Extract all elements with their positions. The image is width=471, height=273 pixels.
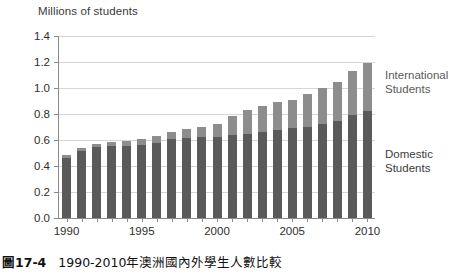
series-label-domestic-line1: Domestic	[385, 148, 433, 162]
y-tick-label-1.0: 1.0	[34, 82, 50, 94]
series-label-domestic: Domestic Students	[385, 148, 433, 175]
x-tick-mark-1998	[187, 218, 188, 222]
caption-text: 1990-2010年澳洲國內外學生人數比較	[58, 255, 282, 270]
bar-segment-domestic-2010[interactable]	[363, 111, 372, 218]
bar-segment-international-1990[interactable]	[62, 155, 71, 158]
bar-segment-international-2009[interactable]	[348, 71, 357, 115]
plot-frame: 0.00.20.40.60.81.01.21.4 199019952000200…	[59, 36, 375, 218]
figure-container: Millions of students 0.00.20.40.60.81.01…	[0, 0, 471, 273]
bar-2003[interactable]	[258, 106, 267, 218]
x-tick-mark-2001	[232, 218, 233, 222]
bar-segment-international-2003[interactable]	[258, 106, 267, 132]
bar-segment-international-1999[interactable]	[197, 127, 206, 137]
bar-2006[interactable]	[303, 94, 312, 218]
bar-segment-international-1996[interactable]	[152, 136, 161, 143]
x-tick-mark-1994	[127, 218, 128, 222]
bar-segment-domestic-1993[interactable]	[107, 146, 116, 218]
bar-1991[interactable]	[77, 148, 86, 218]
bar-segment-domestic-1999[interactable]	[197, 137, 206, 218]
bar-segment-international-1995[interactable]	[137, 139, 146, 144]
bar-segment-international-1997[interactable]	[167, 132, 176, 140]
bar-segment-domestic-2000[interactable]	[213, 137, 222, 218]
y-tick-label-1.2: 1.2	[34, 56, 50, 68]
bar-2005[interactable]	[288, 100, 297, 218]
bar-segment-domestic-1992[interactable]	[92, 147, 101, 218]
x-tick-label-2010: 2010	[355, 225, 381, 237]
x-tick-mark-2007	[322, 218, 323, 222]
bar-segment-international-2001[interactable]	[228, 116, 237, 135]
bar-segment-domestic-2005[interactable]	[288, 128, 297, 218]
x-tick-mark-2006	[307, 218, 308, 222]
bar-segment-domestic-2001[interactable]	[228, 135, 237, 218]
bar-1995[interactable]	[137, 139, 146, 218]
bar-segment-domestic-1996[interactable]	[152, 143, 161, 218]
bar-1998[interactable]	[182, 129, 191, 218]
x-tick-mark-2005	[292, 218, 293, 222]
bar-segment-international-1994[interactable]	[122, 141, 131, 146]
y-tick-mark-0.0	[54, 218, 59, 219]
bar-segment-domestic-1998[interactable]	[182, 138, 191, 218]
x-tick-label-1995: 1995	[129, 225, 155, 237]
bar-1999[interactable]	[197, 127, 206, 218]
bar-segment-international-2010[interactable]	[363, 63, 372, 110]
bar-2008[interactable]	[333, 82, 342, 219]
bar-segment-international-2008[interactable]	[333, 82, 342, 122]
y-tick-label-0.0: 0.0	[34, 212, 50, 224]
x-tick-label-2005: 2005	[279, 225, 305, 237]
bar-segment-domestic-2009[interactable]	[348, 115, 357, 218]
bar-segment-domestic-2008[interactable]	[333, 121, 342, 218]
y-tick-mark-0.4	[54, 166, 59, 167]
bar-segment-domestic-1990[interactable]	[62, 158, 71, 218]
gridline-1.0	[59, 88, 375, 89]
bar-segment-international-2000[interactable]	[213, 124, 222, 137]
bar-segment-domestic-2007[interactable]	[318, 124, 327, 218]
bar-2010[interactable]	[363, 63, 372, 218]
bar-1994[interactable]	[122, 141, 131, 218]
y-tick-mark-0.6	[54, 140, 59, 141]
gridline-1.2	[59, 62, 375, 63]
y-tick-mark-0.8	[54, 114, 59, 115]
bar-segment-international-2007[interactable]	[318, 88, 327, 124]
y-tick-label-0.4: 0.4	[34, 160, 50, 172]
caption-number: 圖17-4	[2, 255, 46, 270]
y-tick-mark-1.0	[54, 88, 59, 89]
bar-segment-international-1991[interactable]	[77, 148, 86, 151]
x-tick-label-2000: 2000	[204, 225, 230, 237]
x-tick-mark-2009	[352, 218, 353, 222]
bar-2007[interactable]	[318, 88, 327, 218]
bar-segment-international-2006[interactable]	[303, 94, 312, 127]
bar-2001[interactable]	[228, 116, 237, 218]
y-tick-label-0.8: 0.8	[34, 108, 50, 120]
bar-segment-international-1992[interactable]	[92, 144, 101, 147]
bar-2004[interactable]	[273, 102, 282, 218]
bar-segment-domestic-1994[interactable]	[122, 146, 131, 218]
bar-1993[interactable]	[107, 142, 116, 218]
bar-1992[interactable]	[92, 144, 101, 218]
x-tick-mark-1990	[67, 218, 68, 222]
y-axis-line	[58, 36, 59, 218]
bar-segment-international-2005[interactable]	[288, 100, 297, 128]
bar-segment-international-1998[interactable]	[182, 129, 191, 138]
x-tick-mark-2004	[277, 218, 278, 222]
bar-segment-domestic-1995[interactable]	[137, 145, 146, 218]
bar-segment-domestic-1997[interactable]	[167, 139, 176, 218]
bar-segment-domestic-1991[interactable]	[77, 151, 86, 218]
bar-1996[interactable]	[152, 136, 161, 218]
bar-segment-international-2004[interactable]	[273, 102, 282, 129]
bar-segment-international-2002[interactable]	[243, 110, 252, 133]
bar-2002[interactable]	[243, 110, 252, 218]
bar-segment-international-1993[interactable]	[107, 142, 116, 146]
bar-segment-domestic-2004[interactable]	[273, 130, 282, 218]
bar-2009[interactable]	[348, 71, 357, 218]
y-tick-label-1.4: 1.4	[34, 30, 50, 42]
bar-segment-domestic-2002[interactable]	[243, 134, 252, 219]
bar-segment-domestic-2006[interactable]	[303, 127, 312, 218]
y-tick-mark-0.2	[54, 192, 59, 193]
x-tick-mark-1993	[112, 218, 113, 222]
bar-1997[interactable]	[167, 132, 176, 218]
bar-2000[interactable]	[213, 124, 222, 218]
x-tick-mark-2003	[262, 218, 263, 222]
bar-1990[interactable]	[62, 155, 71, 218]
series-label-international-line2: Students	[385, 83, 448, 97]
bar-segment-domestic-2003[interactable]	[258, 132, 267, 218]
